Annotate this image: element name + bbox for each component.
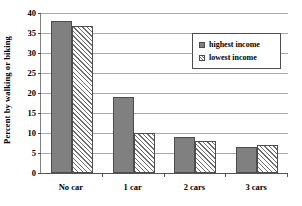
bar: [134, 133, 155, 173]
y-axis-tick-label: 30: [14, 49, 36, 58]
y-axis-tickmark: [38, 33, 41, 34]
x-axis-category-label: 3 cars: [245, 182, 266, 192]
y-axis-tickmark: [38, 73, 41, 74]
legend-label-highest-income: highest income: [209, 41, 260, 49]
y-axis-title: Percent by walking or biking: [0, 0, 14, 180]
y-axis-tickmark: [38, 133, 41, 134]
legend: highest income lowest income: [192, 33, 281, 69]
y-axis-tick-label: 0: [14, 169, 36, 178]
y-axis-tick-label: 25: [14, 69, 36, 78]
y-axis-tick-label: 20: [14, 89, 36, 98]
x-axis-tickmark: [102, 174, 103, 177]
legend-swatch-highest-income: [199, 42, 205, 48]
y-axis-tickmark: [38, 153, 41, 154]
y-axis-tick-label: 15: [14, 109, 36, 118]
x-axis-tickmark: [164, 174, 165, 177]
y-axis-tickmark: [38, 13, 41, 14]
y-axis-tick-labels: 0510152025303540: [14, 0, 36, 206]
legend-item: highest income: [199, 38, 275, 51]
bar: [113, 97, 134, 173]
legend-label-lowest-income: lowest income: [209, 54, 257, 62]
y-axis-tick-label: 40: [14, 9, 36, 18]
gridline: [41, 13, 288, 14]
y-axis-tickmark: [38, 53, 41, 54]
x-axis-category-label: 1 car: [124, 182, 142, 192]
bar: [195, 141, 216, 173]
x-axis-tickmark: [225, 174, 226, 177]
x-axis-category-label: 2 cars: [184, 182, 205, 192]
bar-chart: Percent by walking or biking 05101520253…: [0, 0, 302, 206]
x-axis-category-label: No car: [59, 182, 83, 192]
bar: [257, 145, 278, 173]
bar: [174, 137, 195, 173]
x-axis-tickmark: [287, 174, 288, 177]
bar: [72, 26, 93, 173]
y-axis-tick-label: 10: [14, 129, 36, 138]
y-axis-title-text: Percent by walking or biking: [2, 36, 12, 144]
y-axis-tick-label: 35: [14, 29, 36, 38]
y-axis-tickmark: [38, 93, 41, 94]
y-axis-tickmark: [38, 113, 41, 114]
legend-swatch-lowest-income: [199, 55, 205, 61]
bar: [51, 21, 72, 173]
legend-item: lowest income: [199, 51, 275, 64]
y-axis-tick-label: 5: [14, 149, 36, 158]
bar: [236, 147, 257, 173]
